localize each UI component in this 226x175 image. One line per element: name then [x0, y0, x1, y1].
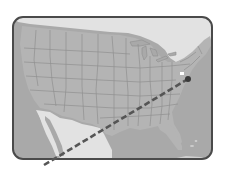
location-marker-icon: [185, 76, 191, 82]
map-canvas: [0, 0, 226, 175]
bay-highlight: [180, 72, 184, 75]
map-figure: [0, 0, 226, 175]
map-content: [13, 17, 212, 159]
